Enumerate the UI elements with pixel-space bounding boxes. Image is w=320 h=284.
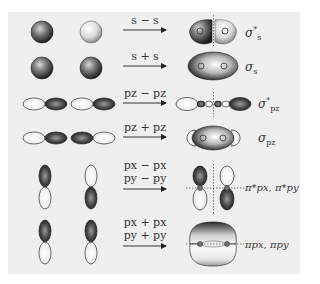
mo-label-sigma-pz: σpz	[258, 131, 276, 147]
s-orbital-dark-icon	[31, 57, 53, 79]
pz-orbital-icon	[71, 132, 115, 144]
pz-orbital-icon	[23, 132, 67, 144]
mo-label-pi-star: π*px, π*py	[245, 182, 299, 193]
pz-orbital-icon	[23, 98, 67, 110]
label-px-minus-px: px − px	[110, 160, 180, 172]
mo-label-pi: πpx, πpy	[245, 239, 289, 250]
px-orbital-icon	[85, 165, 97, 209]
sigma-s-antibonding-icon	[190, 15, 237, 47]
label-s-plus-s: s + s	[110, 51, 180, 63]
px-orbital-icon	[39, 165, 51, 209]
sigma-s-bonding-icon	[188, 52, 238, 80]
label-pz-minus-pz: pz − pz	[110, 88, 180, 100]
label-s-minus-s: s − s	[110, 15, 180, 27]
label-py-minus-py: py − py	[110, 173, 180, 185]
mo-label-sigma-s: σs	[245, 60, 257, 76]
label-py-plus-py: py + py	[110, 230, 180, 242]
s-orbital-light-icon	[80, 21, 102, 43]
px-orbital-icon	[39, 220, 51, 264]
pi-bonding-icon	[186, 222, 244, 266]
pi-antibonding-icon	[186, 164, 244, 214]
s-orbital-dark-icon	[80, 57, 102, 79]
s-orbital-dark-icon	[31, 21, 53, 43]
sigma-pz-antibonding-icon	[176, 92, 251, 117]
mo-label-sigma-pz-star: σ*pz	[258, 96, 280, 113]
px-orbital-icon	[85, 220, 97, 264]
pz-orbital-icon	[71, 98, 115, 110]
mo-label-sigma-s-star: σ*s	[245, 25, 261, 42]
label-pz-plus-pz: pz + pz	[110, 122, 180, 134]
sigma-pz-bonding-icon	[187, 126, 240, 150]
label-px-plus-px: px + px	[110, 217, 180, 229]
